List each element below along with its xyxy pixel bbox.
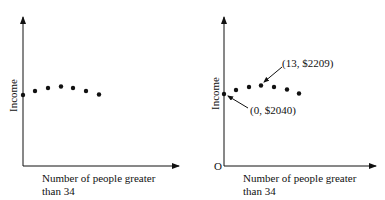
right-x-axis-label-line2: than 34 [243,185,276,197]
origin-label: O [214,160,222,172]
left-x-axis-label-line1: Number of people greater [42,172,155,184]
right-x-axis-label-line1: Number of people greater [243,172,356,184]
right-axes [224,17,376,166]
charts-canvas [0,0,385,200]
left-data-points [21,84,101,97]
annotation-max-point: (13, $2209) [282,57,333,69]
annotation-start-point: (0, $2040) [250,104,296,116]
left-x-axis-label-line2: than 34 [42,185,75,197]
right-data-points [222,83,301,96]
left-y-axis-label: Income [7,79,19,112]
left-axes [23,17,179,166]
right-y-axis-label: Income [209,77,221,110]
